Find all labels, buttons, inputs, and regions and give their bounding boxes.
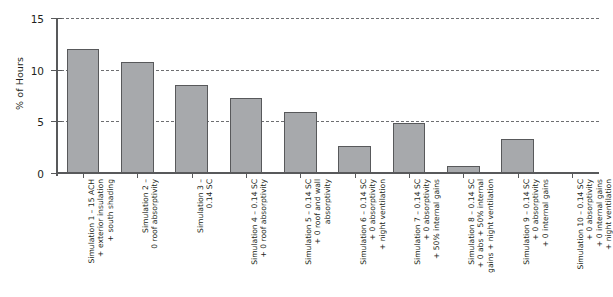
plot-area: 051015 <box>56 18 599 173</box>
y-axis-tick-label: 5 <box>37 116 44 128</box>
bar[interactable] <box>501 139 534 173</box>
bar-slot <box>501 18 534 173</box>
x-axis-label-text: Simulation 5 – 0.14 SC + 0 roof and wall… <box>304 177 332 295</box>
x-axis-label-text: Simulation 8 – 0.14 SC + 0 abs + 50% int… <box>467 177 495 295</box>
bar-slot <box>393 18 426 173</box>
bar-slot <box>175 18 208 173</box>
y-axis-tick-label: 15 <box>31 13 44 25</box>
x-axis-label-text: Simulation 3 – 0.14 SC <box>196 177 215 295</box>
x-axis-label-text: Simulation 1 – 15 ACH + exterior insulat… <box>87 177 115 295</box>
bar-slot <box>284 18 317 173</box>
bar-slot <box>556 18 589 173</box>
bar[interactable] <box>67 49 100 173</box>
y-axis-title: % of Hours <box>14 39 25 129</box>
x-axis-label-text: Simulation 2 – 0 roof absorptivity <box>141 177 160 295</box>
y-axis-tick: 0 <box>51 173 62 174</box>
bar[interactable] <box>175 85 208 173</box>
bar-slot <box>67 18 100 173</box>
bar[interactable] <box>284 112 317 173</box>
bar-slot <box>338 18 371 173</box>
bar[interactable] <box>338 146 371 173</box>
bar-slot <box>121 18 154 173</box>
y-axis-tick-label: 10 <box>31 65 44 77</box>
bar-series <box>56 18 599 173</box>
x-axis-label-text: Simulation 10 – 0.14 SC + 0 absorptivity… <box>576 177 613 295</box>
x-axis-label-text: Simulation 9 – 0.14 SC + 0 absorptivity … <box>522 177 550 295</box>
x-axis-label-text: Simulation 6 – 0.14 SC + 0 absorptivity … <box>359 177 387 295</box>
x-axis-label-text: Simulation 4 – 0.14 SC + 0 roof absorpti… <box>250 177 269 295</box>
bar[interactable] <box>121 62 154 173</box>
x-axis-label-text: Simulation 7 – 0.14 SC + 0 absorptivity … <box>413 177 441 295</box>
bar[interactable] <box>447 166 480 173</box>
bar[interactable] <box>230 98 263 173</box>
bar-slot <box>230 18 263 173</box>
bar[interactable] <box>393 123 426 173</box>
bar-slot <box>447 18 480 173</box>
y-axis-tick-label: 0 <box>37 168 44 180</box>
x-axis-labels: Simulation 1 – 15 ACH + exterior insulat… <box>56 177 599 297</box>
